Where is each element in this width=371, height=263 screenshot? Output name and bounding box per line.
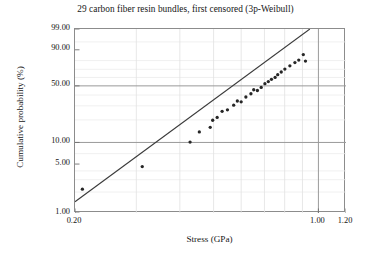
x-axis-title: Stress (GPa) [74,234,345,244]
plot-area [74,28,345,212]
data-points [81,53,307,191]
x-tick-label: 0.20 [67,216,82,225]
y-axis-title: Cumulative probability (%) [15,25,25,209]
x-tick-label: 1.00 [310,216,325,225]
axis-tick-marks [75,29,346,213]
weibull-probability-plot-figure: 29 carbon fiber resin bundles, first cen… [0,0,371,263]
major-horizontal-gridlines [75,86,346,143]
vertical-gridlines [136,29,318,213]
x-tick-label: 1.20 [338,216,353,225]
minor-horizontal-gridlines [75,42,346,192]
plot-canvas [75,29,346,213]
fitted-line [75,29,310,202]
